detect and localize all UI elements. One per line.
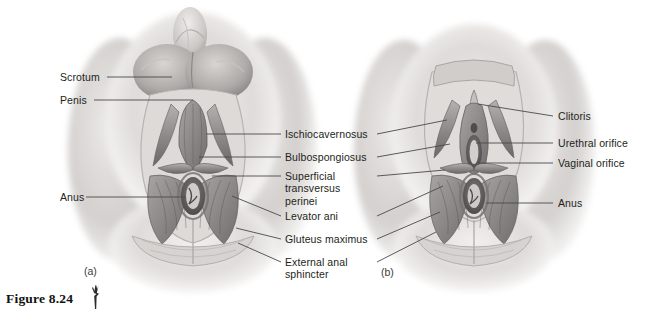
label-eas-line1: External anal	[285, 256, 348, 268]
panel-tag-a: (a)	[84, 265, 97, 277]
label-clitoris: Clitoris	[558, 110, 591, 122]
label-penis: Penis	[60, 94, 87, 106]
panel-tag-b: (b)	[381, 266, 394, 278]
label-eas-line2: sphincter	[285, 268, 348, 280]
anatomy-figure: Scrotum Penis Anus Ischiocavernosus Bulb…	[0, 0, 645, 315]
label-superficial-transversus-perinei: Superficial transversus perinei	[285, 170, 340, 207]
label-gluteus-maximus: Gluteus maximus	[285, 233, 368, 245]
label-external-anal-sphincter: External anal sphincter	[285, 256, 348, 281]
panel-a-male-perineum	[68, 7, 317, 293]
label-ischiocavernosus: Ischiocavernosus	[285, 128, 368, 140]
label-stp-line3: perinei	[285, 195, 340, 207]
label-stp-line1: Superficial	[285, 170, 340, 182]
label-bulbospongiosus: Bulbospongiosus	[285, 151, 366, 163]
brush-mark-icon	[88, 284, 104, 310]
label-anus-left: Anus	[60, 191, 84, 203]
figure-caption: Figure 8.24	[6, 291, 73, 307]
label-scrotum: Scrotum	[60, 71, 100, 83]
label-vaginal-orifice: Vaginal orifice	[558, 157, 625, 169]
label-stp-line2: transversus	[285, 182, 340, 194]
label-anus-right: Anus	[558, 197, 582, 209]
label-urethral-orifice: Urethral orifice	[558, 137, 628, 149]
label-levator-ani: Levator ani	[285, 210, 338, 222]
